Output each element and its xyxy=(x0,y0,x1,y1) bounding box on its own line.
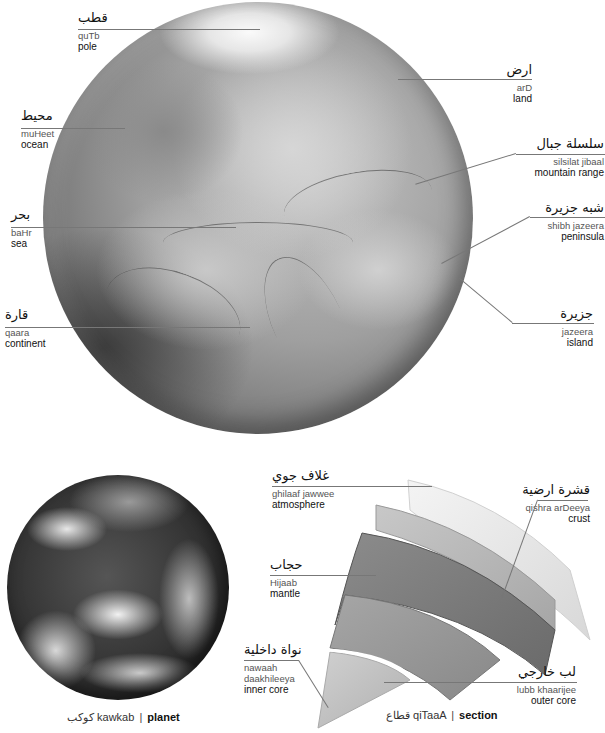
label-translit: ghilaaf jawwee xyxy=(272,488,334,499)
planet-satellite-image xyxy=(7,475,229,700)
label-english: land xyxy=(506,93,532,105)
label-english: continent xyxy=(5,338,46,350)
leader-line-mantle xyxy=(270,575,376,576)
label-translit: lubb khaarijee xyxy=(517,684,576,695)
caption-arabic: قطاع xyxy=(386,709,410,721)
caption-english: planet xyxy=(147,711,179,723)
leader-line-atmosphere xyxy=(272,486,432,487)
label-translit: arD xyxy=(506,82,532,93)
label-arabic: نواة داخلية xyxy=(244,642,302,658)
label-english: mantle xyxy=(270,588,303,600)
label-english: ocean xyxy=(21,139,54,151)
label-translit: jazeera xyxy=(560,326,593,337)
leader-line-outer-core xyxy=(384,682,577,683)
label-translit: muHeet xyxy=(21,128,54,139)
label-english: mountain range xyxy=(535,167,605,179)
leader-line-island-angled xyxy=(458,277,512,323)
label-english: island xyxy=(560,337,593,349)
label-translit: Hijaab xyxy=(270,577,303,588)
leader-line-ocean xyxy=(21,128,125,129)
section-caption: قطاع qiTaaA | section xyxy=(386,709,498,722)
label-inner-core: نواة داخلية nawaah daakhileeya inner cor… xyxy=(244,642,302,696)
leader-line-mountain-range xyxy=(516,154,605,155)
planet-caption: كوكب kawkab | planet xyxy=(67,711,180,724)
leader-line-inner-core xyxy=(244,660,299,661)
label-arabic: سلسلة جبال xyxy=(535,136,605,152)
label-translit: silsilat jibaal xyxy=(535,156,605,167)
caption-separator: | xyxy=(449,709,456,721)
label-outer-core: لب خارجي lubb khaarijee outer core xyxy=(517,664,576,707)
label-arabic: لب خارجي xyxy=(517,664,576,680)
leader-line-peninsula xyxy=(530,217,605,218)
label-english: pole xyxy=(78,41,108,53)
leader-line-pole xyxy=(78,29,260,30)
label-arabic: ارض xyxy=(506,62,532,78)
ridge-mark xyxy=(93,251,252,375)
ridge-mark xyxy=(246,244,369,401)
caption-arabic: كوكب xyxy=(67,711,94,723)
label-translit: quTb xyxy=(78,30,108,41)
label-arabic: شبه جزيرة xyxy=(545,200,604,216)
label-land: ارض arD land xyxy=(506,62,532,105)
label-island: جزيرة jazeera island xyxy=(560,306,593,349)
label-translit: baHr xyxy=(11,227,32,238)
leader-line-continent xyxy=(5,327,250,328)
label-arabic: حجاب xyxy=(270,557,303,573)
label-pole: قطب quTb pole xyxy=(78,10,108,53)
label-translit-line1: nawaah xyxy=(244,662,302,673)
label-ocean: محيط muHeet ocean xyxy=(21,108,54,151)
label-crust: قشرة ارضية qishra arDeeya crust xyxy=(522,482,590,525)
label-translit: qaara xyxy=(5,327,46,338)
label-arabic: محيط xyxy=(21,108,54,124)
leader-line-crust xyxy=(538,500,588,501)
label-translit: shibh jazeera xyxy=(545,220,604,231)
label-translit-line2: daakhileeya xyxy=(244,673,302,684)
label-arabic: قارة xyxy=(5,307,46,323)
caption-english: section xyxy=(459,709,498,721)
label-arabic: قشرة ارضية xyxy=(522,482,590,498)
caption-separator: | xyxy=(137,711,144,723)
label-english: peninsula xyxy=(545,231,604,243)
label-arabic: جزيرة xyxy=(560,306,593,322)
leader-line-land xyxy=(398,79,532,80)
leader-line-island xyxy=(512,323,594,324)
label-mantle: حجاب Hijaab mantle xyxy=(270,557,303,600)
label-peninsula: شبه جزيرة shibh jazeera peninsula xyxy=(545,200,604,243)
label-arabic: بحر xyxy=(11,207,32,223)
label-continent: قارة qaara continent xyxy=(5,307,46,350)
label-arabic: قطب xyxy=(78,10,108,26)
label-english: inner core xyxy=(244,684,302,696)
caption-translit: qiTaaA xyxy=(413,709,446,721)
label-sea: بحر baHr sea xyxy=(11,207,32,250)
label-english: sea xyxy=(11,238,32,250)
label-arabic: غلاف جوي xyxy=(272,468,334,484)
label-english: outer core xyxy=(517,695,576,707)
globe-relief-image xyxy=(43,2,473,434)
label-atmosphere: غلاف جوي ghilaaf jawwee atmosphere xyxy=(272,468,334,511)
label-mountain-range: سلسلة جبال silsilat jibaal mountain rang… xyxy=(535,136,605,179)
label-english: atmosphere xyxy=(272,499,334,511)
caption-translit: kawkab xyxy=(97,711,134,723)
leader-line-sea xyxy=(11,227,236,228)
